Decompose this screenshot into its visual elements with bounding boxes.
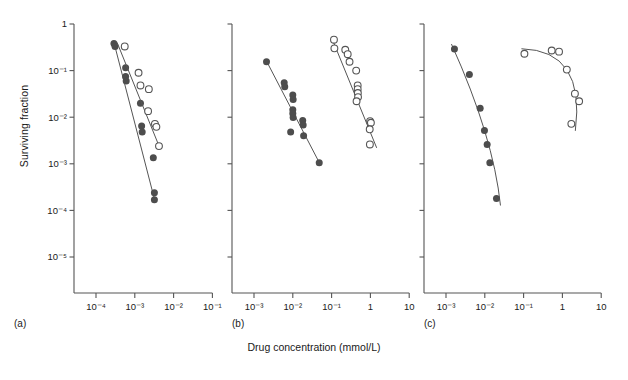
data-point-open: [145, 86, 152, 93]
data-point-open: [344, 51, 351, 58]
panel-c: 10⁻³10⁻²10⁻¹110: [420, 24, 607, 312]
fit-line: [117, 43, 160, 148]
data-point-open: [548, 47, 555, 54]
fit-line-curved: [521, 49, 576, 131]
data-point-open: [366, 126, 373, 133]
data-point-filled: [150, 154, 157, 161]
data-point-filled: [290, 114, 297, 121]
data-point-filled: [287, 129, 294, 136]
data-point-open: [121, 43, 128, 50]
data-point-open: [353, 98, 360, 105]
x-axis-label: Drug concentration (mmol/L): [0, 341, 628, 353]
data-point-filled: [138, 122, 145, 129]
data-point-filled: [281, 83, 288, 90]
data-point-filled: [477, 105, 484, 112]
data-point-filled: [481, 127, 488, 134]
x-tick-label: 10⁻³: [437, 301, 456, 312]
x-tick-label: 10⁻²: [475, 301, 494, 312]
series-open: [521, 47, 583, 131]
data-point-open: [563, 66, 570, 73]
data-point-filled: [151, 189, 158, 196]
series-open: [331, 36, 377, 148]
y-tick-label: 10⁻⁵: [47, 251, 67, 262]
data-point-open: [331, 36, 338, 43]
data-point-filled: [139, 129, 146, 136]
fit-line-curved: [451, 44, 500, 205]
data-point-open: [576, 98, 583, 105]
series-filled: [110, 40, 157, 203]
x-tick-label: 10⁻²: [164, 301, 183, 312]
data-point-filled: [300, 132, 307, 139]
x-tick-label: 10⁻³: [125, 301, 144, 312]
y-axis-label: Surviving fraction: [18, 46, 30, 206]
data-point-open: [331, 45, 338, 52]
data-point-filled: [493, 195, 500, 202]
panel-b: 10⁻³10⁻²10⁻¹110: [228, 24, 415, 312]
data-point-open: [367, 119, 374, 126]
data-point-open: [156, 143, 163, 150]
data-point-filled: [151, 196, 158, 203]
data-point-open: [556, 48, 563, 55]
data-point-filled: [263, 58, 270, 65]
data-point-open: [366, 141, 373, 148]
series-filled: [263, 58, 323, 166]
data-point-filled: [486, 159, 493, 166]
data-point-filled: [300, 122, 307, 129]
data-point-open: [568, 120, 575, 127]
data-point-filled: [290, 96, 297, 103]
y-tick-label: 10⁻⁴: [47, 205, 67, 216]
data-point-filled: [484, 141, 491, 148]
data-point-open: [572, 90, 579, 97]
x-tick-label: 1: [368, 301, 373, 312]
chart-canvas: 110⁻¹10⁻²10⁻³10⁻⁴10⁻⁵10⁻⁴10⁻³10⁻²10⁻¹10⁻…: [0, 0, 628, 380]
series-filled: [451, 44, 501, 205]
data-point-filled: [123, 77, 130, 84]
data-point-filled: [316, 159, 323, 166]
data-point-open: [346, 58, 353, 65]
data-point-open: [153, 123, 160, 130]
panel-a: 110⁻¹10⁻²10⁻³10⁻⁴10⁻⁵10⁻⁴10⁻³10⁻²10⁻¹: [47, 18, 221, 312]
y-tick-label: 10⁻³: [48, 158, 67, 169]
x-tick-label: 10⁻¹: [203, 301, 222, 312]
panel-tag-a: (a): [14, 318, 26, 329]
data-point-open: [521, 50, 528, 57]
data-point-open: [353, 67, 360, 74]
data-point-open: [135, 69, 142, 76]
x-tick-label: 10: [596, 301, 607, 312]
x-tick-label: 10⁻¹: [322, 301, 341, 312]
panel-tag-c: (c): [424, 318, 436, 329]
x-tick-label: 1: [560, 301, 565, 312]
data-point-filled: [451, 46, 458, 53]
x-tick-label: 10: [404, 301, 415, 312]
data-point-filled: [466, 71, 473, 78]
panel-tag-b: (b): [232, 318, 244, 329]
y-tick-label: 10⁻¹: [48, 65, 67, 76]
x-tick-label: 10⁻⁴: [86, 301, 106, 312]
data-point-open: [145, 108, 152, 115]
x-tick-label: 10⁻³: [245, 301, 264, 312]
x-tick-label: 10⁻²: [283, 301, 302, 312]
figure-root: 110⁻¹10⁻²10⁻³10⁻⁴10⁻⁵10⁻⁴10⁻³10⁻²10⁻¹10⁻…: [0, 0, 628, 380]
y-tick-label: 10⁻²: [48, 112, 67, 123]
x-tick-label: 10⁻¹: [514, 301, 533, 312]
y-tick-label: 1: [62, 18, 67, 29]
data-point-open: [137, 82, 144, 89]
